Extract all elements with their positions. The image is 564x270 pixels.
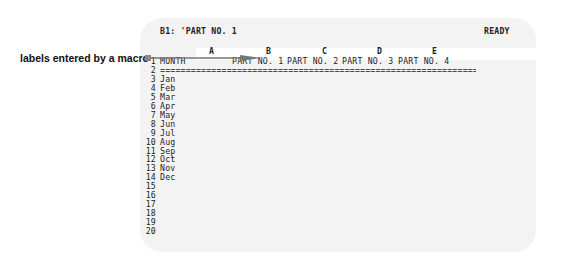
arrowhead-icon	[240, 55, 262, 61]
annotation-arrows	[0, 0, 564, 270]
annotation-marker	[145, 55, 151, 61]
